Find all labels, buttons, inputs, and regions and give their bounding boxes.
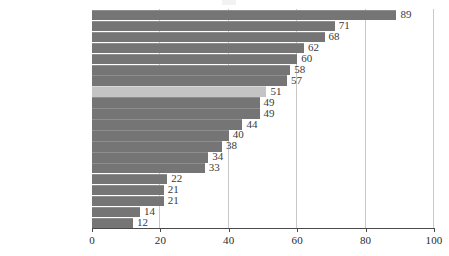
bar — [92, 141, 222, 151]
x-tick-label: 40 — [209, 234, 249, 246]
x-tick-mark — [92, 228, 93, 232]
x-tick-label: 60 — [277, 234, 317, 246]
bar-chart: Haiti89Guatemala71Bolívia68Nicarágua62Ho… — [0, 0, 449, 256]
bar — [92, 130, 229, 140]
bar — [92, 32, 325, 42]
value-label: 12 — [137, 217, 148, 228]
gridline-80 — [365, 9, 366, 228]
value-label: 49 — [264, 97, 275, 108]
value-label: 33 — [209, 162, 220, 173]
x-tick-mark — [366, 228, 367, 232]
value-label: 71 — [339, 20, 350, 31]
x-tick-mark — [160, 228, 161, 232]
bar — [92, 43, 304, 53]
gridline-100 — [433, 9, 434, 228]
bar — [92, 86, 266, 96]
bar — [92, 174, 167, 184]
value-label: 49 — [264, 108, 275, 119]
value-label: 51 — [270, 86, 281, 97]
bar — [92, 65, 290, 75]
value-label: 68 — [329, 31, 340, 42]
bar — [92, 152, 208, 162]
x-tick-mark — [297, 228, 298, 232]
bar — [92, 21, 335, 31]
value-label: 44 — [246, 119, 257, 130]
x-tick-label: 20 — [140, 234, 180, 246]
x-tick-label: 0 — [72, 234, 112, 246]
value-label: 57 — [291, 75, 302, 86]
bar — [92, 97, 260, 107]
value-label: 89 — [400, 9, 411, 20]
bar — [92, 185, 164, 195]
x-tick-label: 100 — [414, 234, 449, 246]
x-axis-line — [92, 228, 435, 229]
value-label: 38 — [226, 140, 237, 151]
top-edge-artifact — [222, 0, 236, 5]
bar — [92, 108, 260, 118]
x-tick-mark — [434, 228, 435, 232]
value-label: 21 — [168, 195, 179, 206]
bar — [92, 54, 297, 64]
x-tick-mark — [229, 228, 230, 232]
bar — [92, 10, 396, 20]
bar — [92, 218, 133, 228]
bar — [92, 119, 242, 129]
bar — [92, 163, 205, 173]
bar — [92, 75, 287, 85]
x-tick-label: 80 — [346, 234, 386, 246]
bar — [92, 207, 140, 217]
